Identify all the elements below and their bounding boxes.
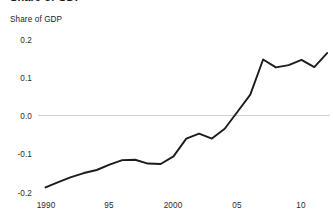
- y-tick-label-1: 0.1: [2, 74, 32, 83]
- y-tick-label-3: -0.1: [2, 150, 32, 159]
- x-tick-label-2: 2000: [164, 201, 183, 210]
- line-chart-plot: [0, 0, 333, 220]
- y-tick-label-0: 0.2: [2, 36, 32, 45]
- data-series-line: [46, 53, 328, 187]
- x-tick-label-3: 05: [232, 201, 241, 210]
- x-tick-label-1: 95: [104, 201, 113, 210]
- x-tick-label-0: 1990: [37, 201, 56, 210]
- y-tick-label-4: -0.2: [2, 189, 32, 198]
- x-tick-label-4: 10: [296, 201, 305, 210]
- y-tick-label-2: 0.0: [2, 112, 32, 121]
- chart-figure: Share of GDP Share of GDP 0.2 0.1 0.0 -0…: [0, 0, 333, 220]
